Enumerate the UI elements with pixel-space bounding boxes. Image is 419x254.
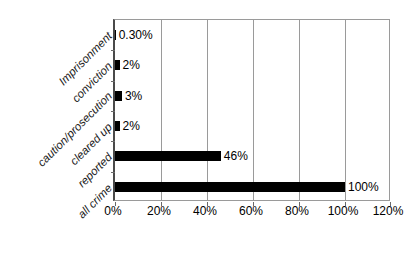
x-axis-label-40: 40% — [193, 204, 217, 218]
x-axis-label-20: 20% — [147, 204, 171, 218]
bar-caution-prosecution[interactable] — [115, 91, 122, 101]
bar-reported[interactable] — [115, 151, 221, 161]
chart-figure: 0.30% 2% 3% 2% 46% 100% 0 — [0, 0, 419, 254]
bar-row: 3% — [115, 81, 389, 111]
x-axis-label-120: 120% — [373, 204, 404, 218]
bar-value-all-crime: 100% — [345, 180, 379, 194]
bar-value-cleared-up: 2% — [120, 119, 140, 133]
plot-area: 0.30% 2% 3% 2% 46% 100% — [113, 19, 390, 201]
bar-row: 2% — [115, 50, 389, 80]
x-axis-label-100: 100% — [328, 204, 359, 218]
x-axis-label-60: 60% — [239, 204, 263, 218]
bar-value-imprisonment: 0.30% — [116, 28, 153, 42]
bar-all-crime[interactable] — [115, 182, 345, 192]
x-axis-label-80: 80% — [285, 204, 309, 218]
bar-value-caution-prosecution: 3% — [122, 89, 142, 103]
bar-row: 0.30% — [115, 20, 389, 50]
bar-value-conviction: 2% — [120, 58, 140, 72]
bar-row: 2% — [115, 111, 389, 141]
bar-value-reported: 46% — [221, 149, 248, 163]
bar-row: 46% — [115, 141, 389, 171]
x-axis-label-0: 0% — [104, 204, 121, 218]
bar-row: 100% — [115, 172, 389, 202]
